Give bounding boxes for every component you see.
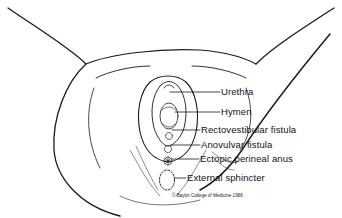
external-sphincter-outline xyxy=(160,170,175,190)
labia-majora xyxy=(138,76,197,162)
rectovestibular-fistula-site xyxy=(166,133,173,140)
anovulvar-fistula-site xyxy=(164,145,171,152)
label-anovulvar-fistula: Anovulvar fistula xyxy=(201,140,272,150)
right-thigh-outline xyxy=(256,8,334,64)
label-ectopic-perineal-anus: Ectopic perineal anus xyxy=(200,154,293,164)
copyright-credit: © Baylor College of Medicine 1986 xyxy=(172,194,243,199)
labia-minora xyxy=(152,82,186,147)
anatomical-diagram: Urethra Hymen Rectovestibular fistula An… xyxy=(0,0,342,218)
diagram-drawing xyxy=(0,0,342,218)
label-hymen: Hymen xyxy=(221,107,252,117)
label-external-sphincter: External sphincter xyxy=(187,173,265,183)
label-rectovestibular-fistula: Rectovestibular fistula xyxy=(201,125,296,135)
label-urethra: Urethra xyxy=(221,87,253,97)
left-thigh-outline xyxy=(8,8,120,216)
